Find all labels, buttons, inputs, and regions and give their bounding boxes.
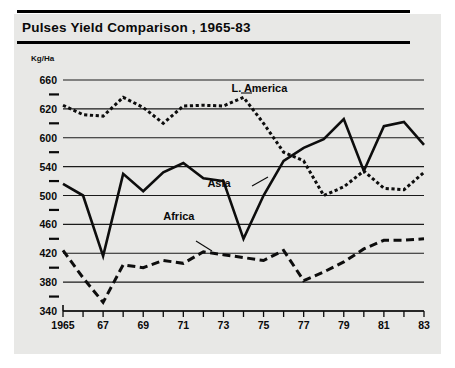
page-title: Pulses Yield Comparison , 1965-83	[17, 20, 251, 35]
y-axis-unit-label: Kg/Ha	[31, 54, 54, 63]
title-bar: Pulses Yield Comparison , 1965-83	[17, 10, 410, 44]
chart-figure	[14, 14, 441, 354]
